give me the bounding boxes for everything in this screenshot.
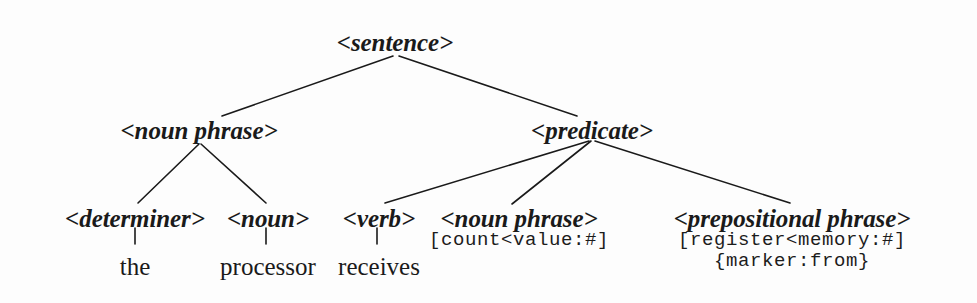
tree-edge-predicate-to-verb [385,141,589,203]
tree-edge-sentence-to-predicate [399,56,577,116]
parse-tree-figure: <sentence> <noun phrase> <predicate> <de… [0,0,977,303]
tree-node-sentence: <sentence> [337,30,453,55]
annotation-noun-phrase-object: [count<value:#] [429,230,609,251]
tree-edge-noun_phrase_subject-to-noun [201,144,266,203]
tree-terminal-receives: receives [338,254,420,279]
tree-node-determiner: <determiner> [65,206,205,231]
tree-terminal-the: the [120,254,151,279]
tree-node-noun-phrase-object: <noun phrase> [440,206,597,231]
tree-node-noun: <noun> [227,206,309,231]
tree-terminal-processor: processor [220,254,316,279]
tree-node-verb: <verb> [343,206,415,231]
tree-edge-sentence-to-noun_phrase_subject [222,56,393,116]
tree-edge-noun_phrase_subject-to-determiner [138,144,199,203]
tree-node-prepositional-phrase: <prepositional phrase> [674,206,911,231]
annotation-prepositional-phrase: [register<memory:#] {marker:from} [678,230,906,272]
tree-node-noun-phrase-subject: <noun phrase> [120,118,277,143]
tree-edge-predicate-to-noun_phrase_object [512,141,591,204]
tree-edge-predicate-to-prepositional_phrase [595,141,790,203]
tree-node-predicate: <predicate> [531,118,653,143]
